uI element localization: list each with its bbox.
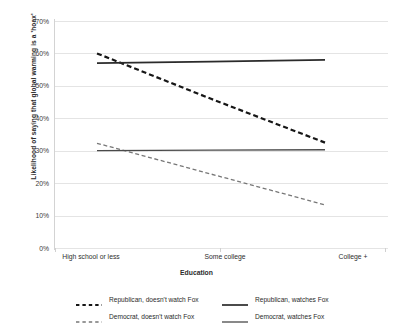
- series-line: [97, 60, 325, 63]
- legend-swatch-icon: [222, 312, 248, 320]
- legend-item[interactable]: Republican, doesn't watch Fox: [76, 293, 199, 305]
- legend-item[interactable]: Democrat, watches Fox: [222, 310, 324, 322]
- legend-label: Republican, doesn't watch Fox: [109, 296, 199, 303]
- y-tick-label: 70%: [21, 18, 49, 25]
- y-tick-label: 10%: [21, 212, 49, 219]
- y-tick-label: 30%: [21, 147, 49, 154]
- legend-label: Democrat, doesn't watch Fox: [109, 313, 194, 320]
- series-line: [97, 150, 325, 151]
- y-tick-label: 40%: [21, 115, 49, 122]
- y-tick-label: 0%: [21, 245, 49, 252]
- x-tick-label: Some college: [185, 253, 265, 260]
- series-line: [97, 143, 325, 205]
- x-tick-label: High school or less: [51, 253, 131, 260]
- chart-container: Likelihood of saying that global warming…: [0, 0, 393, 331]
- y-tick-label: 20%: [21, 180, 49, 187]
- legend-item[interactable]: Democrat, doesn't watch Fox: [76, 310, 194, 322]
- legend-label: Democrat, watches Fox: [255, 313, 324, 320]
- y-tick-label: 60%: [21, 50, 49, 57]
- legend-swatch-icon: [76, 312, 102, 320]
- x-axis-title: Education: [0, 269, 393, 276]
- chart-legend: Republican, doesn't watch FoxRepublican,…: [0, 293, 393, 327]
- x-tickmark: [220, 248, 221, 252]
- gridline: [55, 248, 388, 249]
- plot-area: [55, 21, 388, 248]
- legend-item[interactable]: Republican, watches Fox: [222, 293, 329, 305]
- x-tick-label: College +: [313, 253, 393, 260]
- series-lines: [55, 21, 388, 248]
- series-line: [97, 53, 325, 142]
- y-axis-tick-labels: 0%10%20%30%40%50%60%70%: [21, 0, 49, 331]
- legend-label: Republican, watches Fox: [255, 296, 329, 303]
- legend-swatch-icon: [222, 295, 248, 303]
- legend-swatch-icon: [76, 295, 102, 303]
- x-axis-tick-labels: High school or lessSome collegeCollege +: [55, 253, 388, 267]
- x-tickmark: [55, 248, 56, 252]
- y-tick-label: 50%: [21, 82, 49, 89]
- x-tickmark: [385, 248, 386, 252]
